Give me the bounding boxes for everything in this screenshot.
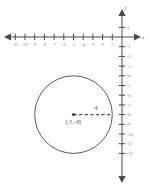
x-axis-ticks: -11-10-9-8-7-6-5-4-3-2-1 [13, 34, 114, 47]
y-tick-label--9: -9 [127, 122, 130, 127]
y-tick-label--7: -7 [127, 103, 130, 108]
x-tick-label--4: -4 [81, 42, 84, 47]
y-tick-label--10: -10 [127, 132, 132, 137]
y-axis-ticks: 1-1-2-3-4-5-6-7-8-9-10-11-12 [119, 25, 133, 156]
radius-length-label: 4 [94, 105, 97, 111]
y-tick-label--12: -12 [127, 151, 132, 156]
x-tick-label--1: -1 [111, 42, 114, 47]
x-tick-label--2: -2 [101, 42, 104, 47]
x-axis-label: x [141, 35, 145, 40]
x-tick-label--10: -10 [22, 42, 27, 47]
y-tick-label--1: -1 [127, 44, 130, 49]
y-axis: y [118, 5, 127, 183]
y-tick-label--8: -8 [127, 112, 130, 117]
x-tick-label--9: -9 [33, 42, 36, 47]
center-coordinates-label: (-5, -8) [66, 119, 81, 126]
circle-shape-group: 4(-5, -8) [35, 76, 113, 154]
y-tick-label--4: -4 [127, 73, 130, 78]
y-tick-label--3: -3 [127, 64, 130, 69]
y-tick-label--5: -5 [127, 83, 130, 88]
x-tick-label--8: -8 [43, 42, 46, 47]
y-axis-label: y [124, 5, 128, 10]
graph-screenshot: x y -11-10-9-8-7-6-5-4-3-2-1 1-1-2-3-4-5… [0, 0, 149, 187]
x-tick-label--7: -7 [52, 42, 55, 47]
y-axis-bottom-arrow [118, 176, 125, 183]
center-point-dot [72, 113, 75, 116]
y-tick-label--6: -6 [127, 93, 130, 98]
y-tick-label-1: 1 [127, 25, 129, 30]
y-tick-label--2: -2 [127, 54, 130, 59]
x-tick-label--5: -5 [72, 42, 75, 47]
y-tick-label--11: -11 [127, 141, 132, 146]
x-tick-label--3: -3 [91, 42, 94, 47]
x-axis-right-arrow [134, 33, 141, 40]
x-tick-label--6: -6 [62, 42, 65, 47]
coordinate-plane-figure: x y -11-10-9-8-7-6-5-4-3-2-1 1-1-2-3-4-5… [0, 0, 149, 187]
x-tick-label--11: -11 [13, 42, 18, 47]
y-axis-top-arrow [118, 9, 125, 16]
x-axis-left-arrow [4, 33, 11, 40]
